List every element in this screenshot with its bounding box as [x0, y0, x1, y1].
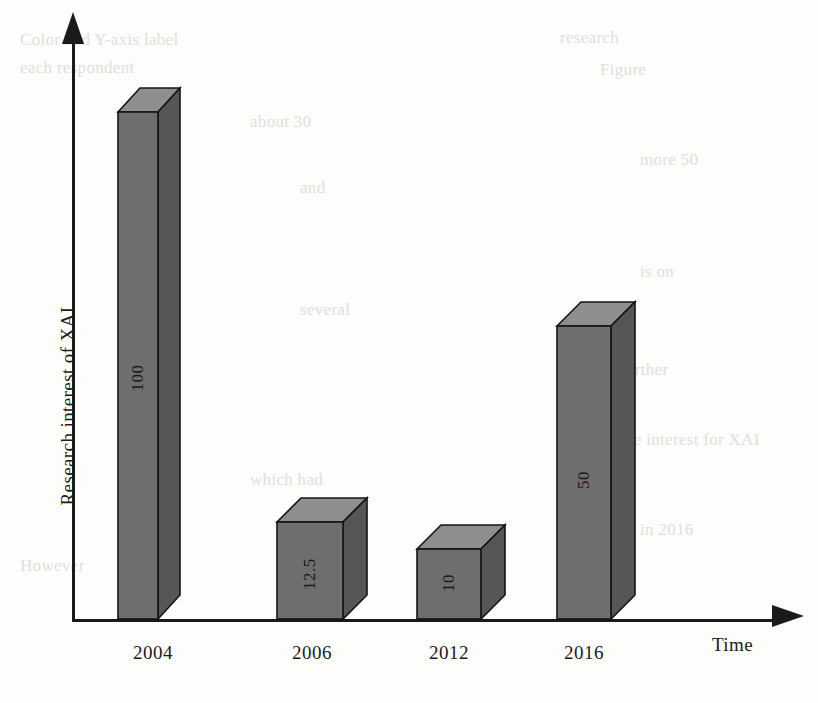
- bar-2006: 12.5: [277, 498, 367, 619]
- x-tick-label-2004: 2004: [118, 642, 188, 664]
- bar-value-label: 10: [439, 567, 459, 599]
- bar-chart: Research interest of XAI Time 100 12.5 1…: [0, 0, 818, 703]
- bar-2016: 50: [557, 302, 635, 619]
- bar-value-label: 50: [574, 462, 594, 498]
- bar-3d-geometry: [557, 302, 635, 619]
- bar-3d-geometry: [417, 525, 505, 619]
- bar-2012: 10: [417, 525, 505, 619]
- x-tick-label-2016: 2016: [549, 642, 619, 664]
- y-axis-title: Research interest of XAI: [57, 276, 79, 536]
- bar-value-label: 100: [128, 356, 148, 400]
- y-axis-arrow-icon: [62, 12, 84, 44]
- x-axis-arrow-icon: [772, 605, 804, 627]
- x-tick-label-2006: 2006: [277, 642, 347, 664]
- bar-3d-geometry: [118, 88, 202, 619]
- x-axis-title: Time: [712, 634, 753, 656]
- x-tick-label-2012: 2012: [414, 642, 484, 664]
- bar-3d-geometry: [277, 498, 367, 619]
- bar-value-label: 12.5: [300, 553, 320, 595]
- bar-2004: 100: [118, 88, 202, 619]
